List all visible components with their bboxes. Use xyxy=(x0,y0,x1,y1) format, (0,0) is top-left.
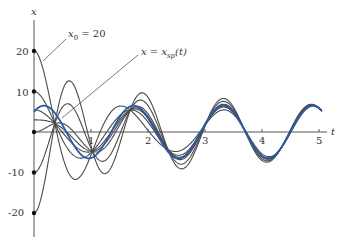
x-tick-3: 3 xyxy=(202,135,208,146)
y-tick-10: 10 xyxy=(16,87,29,98)
chart: x t 1 2 3 4 5 20 10 -10 -20 x0 = 20 x = … xyxy=(0,0,346,241)
x0-annotation-leader xyxy=(43,39,66,61)
x-tick-4: 4 xyxy=(259,135,265,146)
initial-value-dot xyxy=(32,170,36,174)
xsp-annotation: x = xsp(t) xyxy=(141,46,187,60)
transient-curve xyxy=(34,81,322,213)
initial-value-dot xyxy=(32,211,36,215)
initial-value-dot xyxy=(32,49,36,53)
y-tick-neg20: -20 xyxy=(8,207,24,218)
x0-annotation: x0 = 20 xyxy=(68,28,106,42)
initial-value-dot xyxy=(32,130,36,134)
y-tick-neg10: -10 xyxy=(8,167,24,178)
x-axis-label: t xyxy=(331,126,336,137)
y-tick-20: 20 xyxy=(16,46,29,57)
y-ticks: 20 10 -10 -20 xyxy=(8,46,29,218)
y-axis-label: x xyxy=(31,6,37,17)
x-tick-2: 2 xyxy=(145,135,151,146)
x-tick-5: 5 xyxy=(316,135,322,146)
initial-value-dot xyxy=(32,89,36,93)
